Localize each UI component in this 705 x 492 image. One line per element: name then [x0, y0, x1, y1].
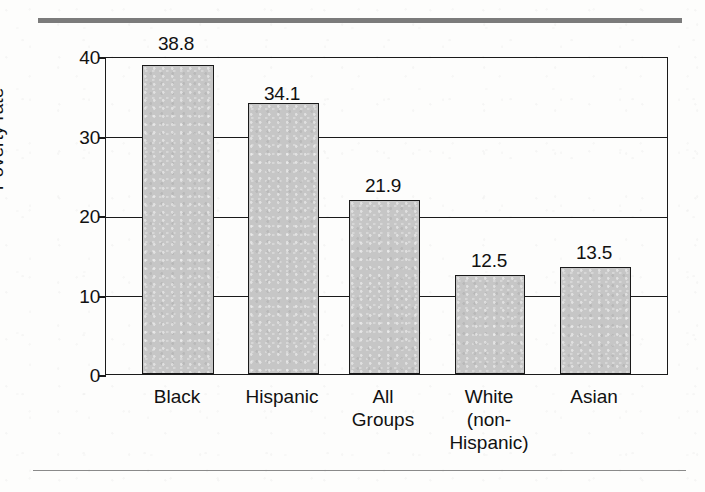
bar-black[interactable] — [142, 65, 214, 374]
y-tick-label-10: 10 — [56, 287, 100, 306]
plot-area — [105, 57, 668, 375]
category-label-hispanic: Hispanic — [227, 385, 337, 408]
bar-asian[interactable] — [560, 267, 631, 374]
category-label-all-groups: All Groups — [328, 385, 438, 431]
y-tick-label-0: 0 — [56, 366, 100, 385]
bar-value-all-groups: 21.9 — [328, 176, 438, 195]
bar-value-hispanic: 34.1 — [227, 84, 337, 103]
bar-white[interactable] — [455, 275, 525, 374]
category-label-asian: Asian — [539, 385, 649, 408]
y-axis-title: Poverty rate — [0, 24, 8, 254]
bar-all-groups[interactable] — [349, 200, 420, 374]
bottom-divider-rule — [33, 470, 686, 471]
bar-hispanic[interactable] — [248, 103, 319, 374]
figure-canvas: Poverty rate 40 30 20 10 0 38.8 34.1 21.… — [0, 0, 705, 492]
bar-value-black: 38.8 — [121, 34, 231, 53]
bar-value-asian: 13.5 — [539, 243, 649, 262]
y-tick-label-40: 40 — [56, 48, 100, 67]
category-label-white: White (non- Hispanic) — [434, 385, 544, 454]
y-tick-mark-0 — [99, 375, 106, 377]
bar-value-white: 12.5 — [434, 251, 544, 270]
y-tick-label-30: 30 — [56, 128, 100, 147]
y-tick-label-20: 20 — [56, 207, 100, 226]
top-divider-rule — [38, 18, 682, 23]
category-label-black: Black — [122, 385, 232, 408]
